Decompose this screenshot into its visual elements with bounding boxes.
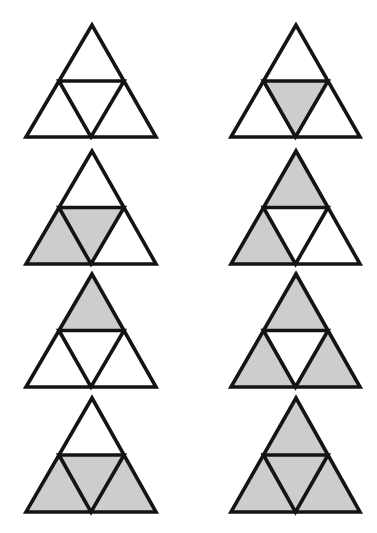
sierpinski-triangle-4	[231, 151, 360, 264]
sub-triangle-top-unshaded	[59, 151, 124, 208]
sub-triangle-top-shaded	[264, 151, 329, 208]
sub-triangle-top-unshaded	[59, 25, 124, 81]
sub-triangle-top-shaded	[264, 398, 329, 455]
sub-triangle-top-unshaded	[264, 25, 329, 81]
sierpinski-triangle-6	[231, 274, 360, 387]
triangle-grid-figure	[0, 0, 377, 533]
sierpinski-triangle-1	[26, 25, 156, 137]
sierpinski-triangle-2	[231, 25, 360, 137]
sierpinski-triangle-7	[26, 398, 156, 512]
sierpinski-triangle-5	[26, 274, 156, 387]
sub-triangle-top-shaded	[59, 274, 124, 331]
sub-triangle-top-unshaded	[59, 398, 124, 455]
sierpinski-triangle-8	[231, 398, 360, 512]
sub-triangle-top-shaded	[264, 274, 329, 331]
sierpinski-triangle-3	[26, 151, 156, 264]
